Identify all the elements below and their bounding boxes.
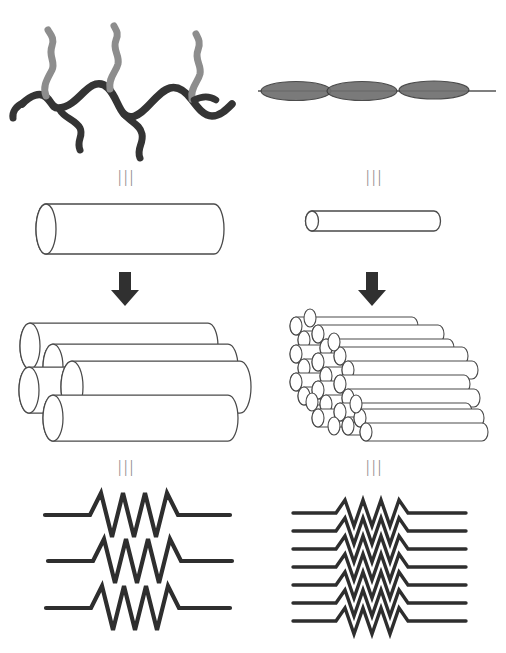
figure-canvas: ||| ||| <box>0 0 506 653</box>
zigzag-chain <box>293 608 466 634</box>
small-amplitude-zigzag-stack <box>0 0 506 653</box>
